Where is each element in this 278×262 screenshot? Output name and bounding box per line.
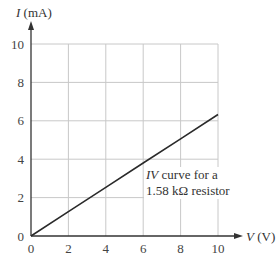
x-tick-label: 2	[65, 241, 72, 256]
axes	[28, 21, 243, 239]
y-tick-label: 6	[18, 113, 25, 128]
y-axis-label: I (mA)	[15, 5, 52, 20]
y-tick-label: 2	[18, 190, 25, 205]
y-tick-label: 4	[18, 152, 25, 167]
annotation-line-1: IV curve for a	[146, 167, 230, 183]
grid-lines	[31, 44, 218, 236]
x-axis-arrow-icon	[234, 233, 243, 239]
iv-chart: 02468100246810 I (mA)V (V)	[0, 0, 278, 262]
x-tick-label: 6	[140, 241, 147, 256]
y-axis-arrow-icon	[28, 21, 34, 30]
y-tick-label: 8	[18, 75, 25, 90]
annotation-line-2: 1.58 kΩ resistor	[146, 183, 230, 199]
y-tick-label: 0	[18, 229, 25, 244]
x-tick-label: 10	[212, 241, 225, 256]
tick-labels: 02468100246810	[11, 37, 225, 257]
x-tick-label: 4	[103, 241, 110, 256]
annotation-iv-italic: IV	[146, 167, 158, 182]
curve-annotation: IV curve for a 1.58 kΩ resistor	[144, 167, 232, 199]
y-tick-label: 10	[11, 37, 24, 52]
x-tick-label: 8	[177, 241, 184, 256]
x-tick-label: 0	[28, 241, 35, 256]
axis-labels: I (mA)V (V)	[15, 5, 275, 244]
x-axis-label: V (V)	[246, 229, 275, 244]
annotation-line-1-rest: curve for a	[158, 167, 218, 182]
